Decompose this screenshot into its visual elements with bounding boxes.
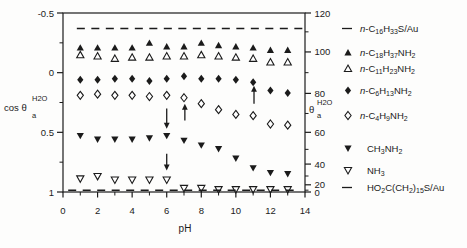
legend-marker-triangle-up-open — [339, 62, 358, 75]
legend-item-CH3NH2: CH3NH2 — [339, 141, 402, 155]
legend-marker-triangle-up-filled — [339, 46, 358, 59]
legend-item-n-C6H13NH2: n-C6H13NH2 — [339, 83, 412, 97]
legend-label: n-C4H9NH2 — [360, 110, 408, 121]
legend-item-n-C4H9NH2: n-C4H9NH2 — [339, 108, 408, 122]
legend-item-n-C18H37NH2: n-C18H37NH2 — [339, 45, 415, 59]
legend-marker-triangle-down-open — [339, 164, 358, 177]
legend-label: CH3NH2 — [367, 143, 402, 154]
legend-label: n-C18H37NH2 — [360, 47, 415, 58]
legend-item-n-C16H33S/Au: n-C16H33S/Au — [339, 21, 418, 35]
legend-marker-diamond-filled — [339, 84, 358, 97]
legend-label: n-C11H23NH2 — [360, 63, 415, 74]
legend-label: n-C6H13NH2 — [360, 85, 412, 96]
legend-label: HO2C(CH2)15S/Au — [367, 182, 444, 193]
legend-item-HO2C(CH2)15S/Au: HO2C(CH2)15S/Au — [339, 180, 444, 194]
legend-marker-diamond-open — [339, 109, 358, 122]
legend: n-C16H33S/Aun-C18H37NH2n-C11H23NH2n-C6H1… — [0, 0, 467, 248]
legend-marker-dash — [339, 22, 358, 35]
legend-marker-dash — [339, 181, 358, 194]
legend-item-n-C11H23NH2: n-C11H23NH2 — [339, 61, 415, 75]
figure-container: -0.500.5102468101214120100806040200 H2O … — [0, 0, 467, 248]
legend-label: n-C16H33S/Au — [360, 23, 418, 34]
legend-label: NH3 — [367, 165, 385, 176]
legend-item-NH3: NH3 — [339, 163, 385, 177]
legend-marker-triangle-down-filled — [339, 142, 358, 155]
